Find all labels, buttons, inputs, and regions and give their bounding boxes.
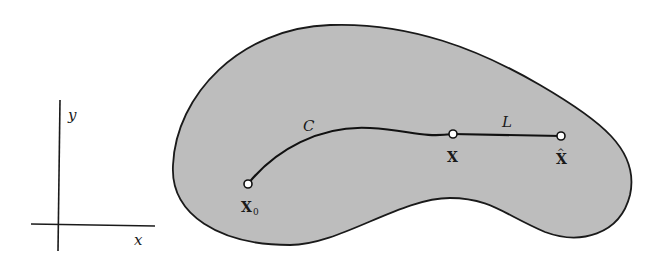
- point-x: [449, 130, 457, 138]
- point-x-hat-accent: ^: [557, 147, 565, 157]
- point-x-label: X: [447, 149, 458, 165]
- point-x0: [244, 180, 252, 188]
- coordinate-axes: y x: [31, 100, 155, 251]
- y-axis-label: y: [67, 106, 77, 124]
- point-x0-label: X: [241, 199, 252, 215]
- segment-l-label: L: [501, 113, 512, 131]
- y-axis: [58, 100, 60, 251]
- x-axis: [31, 224, 155, 226]
- diagram-canvas: y x C L X 0 X X ^: [0, 0, 657, 267]
- point-x-hat: [557, 132, 565, 140]
- curve-c-label: C: [303, 117, 315, 135]
- point-x0-subscript: 0: [253, 207, 259, 217]
- x-axis-label: x: [134, 231, 143, 249]
